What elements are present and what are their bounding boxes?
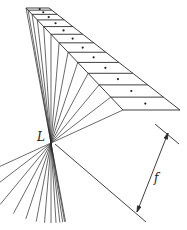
optics-diagram: [0, 0, 187, 230]
dimension-line: [137, 133, 168, 212]
diverging-rays: [0, 143, 66, 223]
arrowhead-top-icon: [164, 133, 168, 139]
lens-label: L: [37, 131, 45, 143]
object-strip: [26, 8, 180, 110]
focal-length-label: f: [154, 172, 158, 184]
slice-dots: [39, 8, 147, 105]
focal-length-dimension: [137, 133, 168, 212]
image-plane-line: [55, 144, 146, 222]
arrowhead-bottom-icon: [137, 206, 141, 212]
